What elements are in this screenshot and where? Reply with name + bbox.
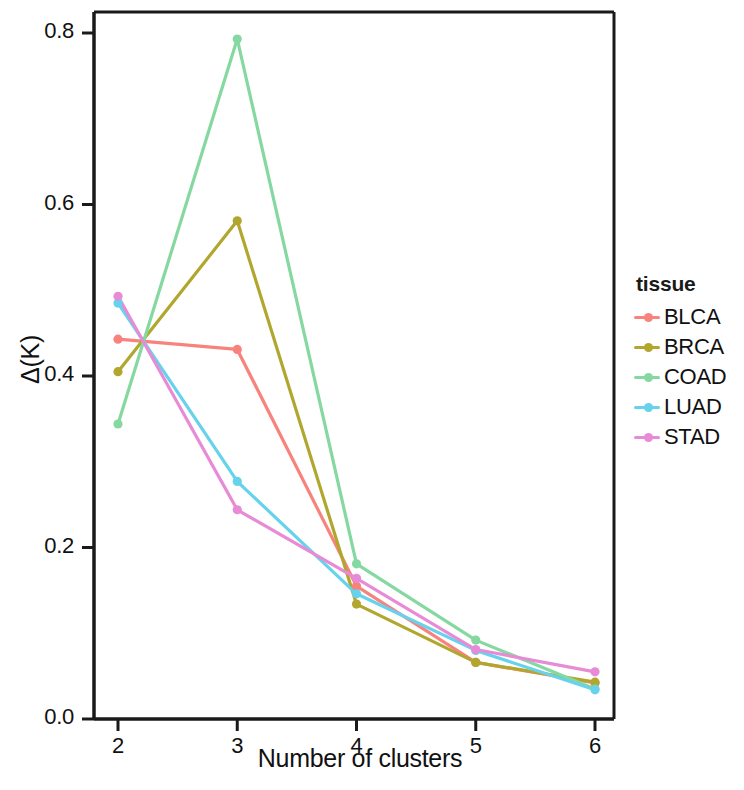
legend-label: STAD — [664, 424, 720, 450]
legend-item-coad[interactable]: COAD — [634, 362, 744, 392]
legend-label: COAD — [664, 364, 726, 390]
y-tick-label: 0.8 — [14, 18, 74, 44]
legend-key-icon — [634, 396, 660, 418]
legend-key-icon — [634, 366, 660, 388]
plot-panel-frame — [94, 12, 614, 719]
data-point-brca-k4 — [352, 600, 361, 609]
legend-item-blca[interactable]: BLCA — [634, 302, 744, 332]
data-point-stad-k2 — [113, 292, 122, 301]
legend-key-icon — [634, 426, 660, 448]
legend-items: BLCABRCACOADLUADSTAD — [634, 302, 744, 452]
data-point-blca-k3 — [233, 345, 242, 354]
x-axis-ticks — [118, 719, 595, 731]
legend-label: BRCA — [664, 334, 724, 360]
data-point-coad-k3 — [233, 34, 242, 43]
data-point-brca-k3 — [233, 216, 242, 225]
data-point-brca-k5 — [471, 658, 480, 667]
legend-label: LUAD — [664, 394, 722, 420]
legend-key-icon — [634, 336, 660, 358]
series-line-brca — [118, 221, 595, 682]
figure-container: 0.00.20.40.60.8 23456 Δ(K) Number of clu… — [0, 0, 744, 790]
y-tick-label: 0.2 — [14, 533, 74, 559]
legend-item-stad[interactable]: STAD — [634, 422, 744, 452]
data-point-stad-k3 — [233, 505, 242, 514]
legend-item-brca[interactable]: BRCA — [634, 332, 744, 362]
legend-key-dot — [644, 343, 653, 352]
y-tick-label: 0.6 — [14, 190, 74, 216]
legend-key-dot — [644, 403, 653, 412]
legend: tissue BLCABRCACOADLUADSTAD — [634, 272, 744, 452]
data-point-blca-k2 — [113, 335, 122, 344]
x-axis-title: Number of clusters — [110, 744, 610, 773]
legend-key-dot — [644, 313, 653, 322]
y-tick-label: 0.0 — [14, 704, 74, 730]
legend-item-luad[interactable]: LUAD — [634, 392, 744, 422]
series-line-stad — [118, 296, 595, 672]
line-chart-plot — [0, 0, 744, 790]
legend-key-dot — [644, 373, 653, 382]
data-point-coad-k4 — [352, 559, 361, 568]
series-line-luad — [118, 303, 595, 690]
data-point-brca-k2 — [113, 367, 122, 376]
series-points-group — [113, 34, 599, 694]
data-point-luad-k4 — [352, 589, 361, 598]
data-point-luad-k6 — [590, 685, 599, 694]
data-point-stad-k5 — [471, 645, 480, 654]
data-point-coad-k2 — [113, 419, 122, 428]
legend-key-icon — [634, 306, 660, 328]
data-point-coad-k5 — [471, 636, 480, 645]
data-point-luad-k3 — [233, 477, 242, 486]
legend-title: tissue — [636, 272, 744, 296]
data-point-stad-k6 — [590, 667, 599, 676]
legend-label: BLCA — [664, 304, 720, 330]
legend-key-dot — [644, 433, 653, 442]
y-axis-ticks — [82, 33, 94, 719]
y-axis-title: Δ(K) — [16, 305, 45, 415]
series-line-blca — [118, 339, 595, 683]
data-point-stad-k4 — [352, 574, 361, 583]
